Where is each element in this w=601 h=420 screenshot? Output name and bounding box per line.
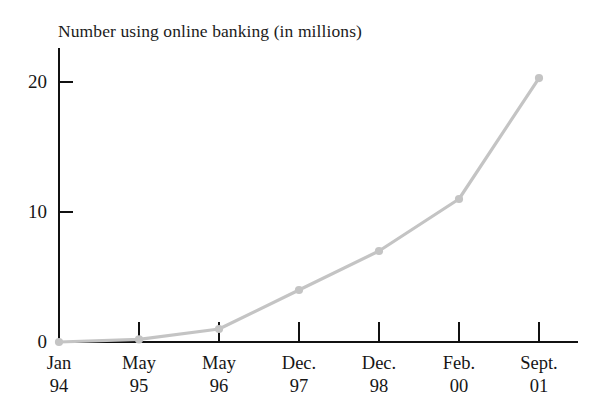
series-markers (55, 74, 543, 346)
series-line (59, 78, 539, 342)
data-point-sept--01 (535, 74, 543, 82)
data-point-dec--97 (295, 286, 303, 294)
data-point-feb--00 (455, 195, 463, 203)
data-point-may-95 (135, 335, 143, 343)
data-point-dec--98 (375, 247, 383, 255)
data-point-may-96 (215, 325, 223, 333)
plot-area: 01020 Jan94May95May96Dec.97Dec.98Feb.00S… (0, 0, 601, 420)
data-point-jan-94 (55, 338, 63, 346)
chart-page: Number using online banking (in millions… (0, 0, 601, 420)
data-series-svg (0, 0, 601, 420)
